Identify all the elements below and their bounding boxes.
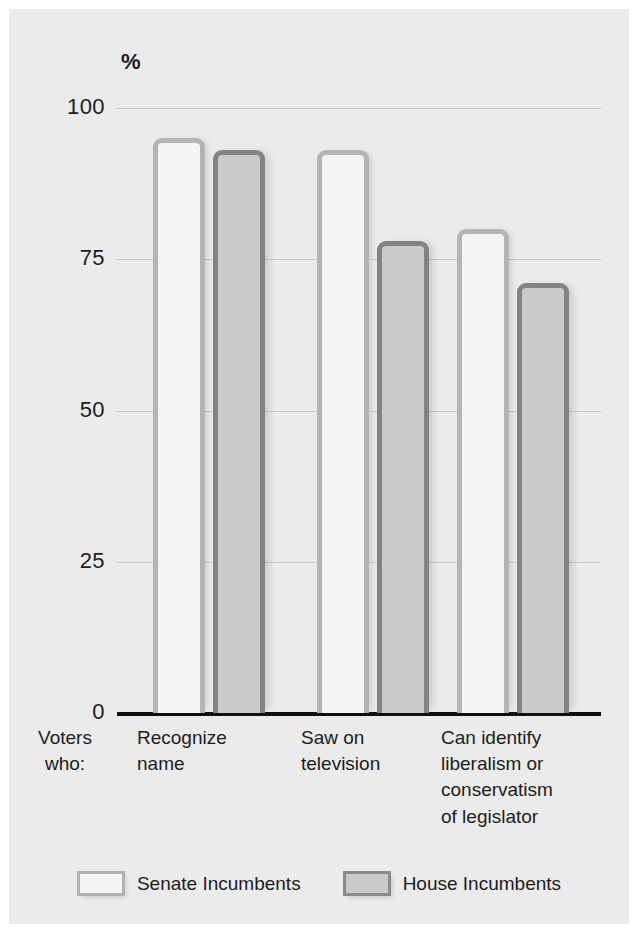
y-tick-label-50: 50 <box>35 399 105 421</box>
x-category-label-2: Saw on television <box>301 725 441 777</box>
bar-senate-group-3 <box>457 229 509 713</box>
bar-house-group-3 <box>517 283 569 713</box>
legend-swatch-icon-senate <box>77 871 125 896</box>
bar-senate-group-2 <box>317 150 369 713</box>
legend-swatch-icon-house <box>343 871 391 896</box>
legend-label-senate: Senate Incumbents <box>137 873 301 895</box>
y-tick-label-100: 100 <box>35 96 105 118</box>
legend-entry-house: House Incumbents <box>343 871 561 896</box>
chart-legend: Senate IncumbentsHouse Incumbents <box>9 871 629 896</box>
bar-house-group-2 <box>377 241 429 713</box>
y-axis-unit-label: % <box>121 49 141 75</box>
legend-entry-senate: Senate Incumbents <box>77 871 301 896</box>
x-axis-prefix-label: Voters who: <box>19 725 111 777</box>
x-category-label-3: Can identify liberalism or conservatism … <box>441 725 611 830</box>
y-tick-label-0: 0 <box>35 701 105 723</box>
bar-senate-group-1 <box>153 138 205 713</box>
chart-panel: % 0255075100 Voters who: Recognize nameS… <box>9 9 629 924</box>
gridline-100 <box>117 108 601 109</box>
y-tick-label-75: 75 <box>35 247 105 269</box>
y-tick-label-25: 25 <box>35 550 105 572</box>
x-category-label-1: Recognize name <box>137 725 287 777</box>
bar-house-group-1 <box>213 150 265 713</box>
chart-figure: % 0255075100 Voters who: Recognize nameS… <box>0 0 638 933</box>
plot-area: % 0255075100 Voters who: Recognize nameS… <box>9 9 629 924</box>
legend-label-house: House Incumbents <box>403 873 561 895</box>
